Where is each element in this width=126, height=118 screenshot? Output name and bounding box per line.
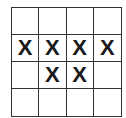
grid-cell: X: [67, 62, 94, 89]
grid-cell: [67, 89, 94, 116]
grid-cell: X: [39, 62, 66, 89]
grid-cell: [39, 8, 66, 35]
grid-cell: [12, 89, 39, 116]
grid-cell: X: [67, 35, 94, 62]
grid-cell: [12, 8, 39, 35]
grid-cell: [94, 89, 121, 116]
grid-cell: [12, 62, 39, 89]
grid-cell: X: [94, 35, 121, 62]
grid-cell: X: [12, 35, 39, 62]
tic-grid: X X X X X X: [11, 7, 122, 117]
grid-cell: [39, 89, 66, 116]
grid-cell: [67, 8, 94, 35]
grid-cell: X: [39, 35, 66, 62]
grid-cell: [94, 8, 121, 35]
grid-cell: [94, 62, 121, 89]
